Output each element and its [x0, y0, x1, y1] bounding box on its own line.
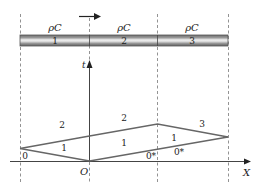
origin-label: O [80, 166, 88, 177]
wave-diagram: 1 2 3 ρC ρC ρC t X O 2 2 3 1 1 1 0 0* 0* [0, 0, 257, 184]
region-label-upper-middle: 2 [121, 113, 127, 123]
region-label-inner-middle: 1 [121, 138, 127, 148]
region-label-inner-left: 1 [61, 143, 67, 153]
region-label-upper-left: 2 [59, 120, 65, 130]
t-axis-arrow-icon [87, 60, 93, 68]
axes: t X O [10, 60, 251, 178]
region-label-bottom-left: 0 [22, 151, 28, 161]
right-arrow-icon [79, 13, 101, 20]
wave-line-lower-right [90, 137, 229, 161]
wave-line-lower-left [20, 149, 90, 162]
material-label-3: ρC [184, 22, 199, 33]
material-label-2: ρC [116, 22, 131, 33]
region-label-upper-right: 3 [199, 119, 205, 129]
rod-segment-label-1: 1 [52, 36, 58, 46]
rod-segment-label-2: 2 [121, 36, 127, 46]
rod-segment-label-3: 3 [189, 36, 195, 46]
region-label-bottom-right: 0* [174, 147, 185, 157]
x-axis-label: X [242, 167, 251, 178]
region-label-inner-right: 1 [171, 133, 177, 143]
region-label-bottom-middle: 0* [146, 151, 157, 161]
t-axis-label: t [82, 60, 86, 70]
x-axis-arrow-icon [244, 159, 251, 165]
material-label-1: ρC [47, 22, 62, 33]
rod: 1 2 3 ρC ρC ρC [20, 22, 228, 46]
